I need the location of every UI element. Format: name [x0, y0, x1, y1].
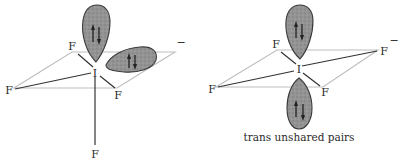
bond-i-f-front-right — [100, 76, 115, 88]
lone-pair-lobe-bottom-right — [287, 78, 312, 129]
right-diagram: I F F F F − trans unshared pairs — [208, 5, 398, 143]
atom-label-f-back-right: F — [380, 45, 388, 58]
left-diagram: I F F F F − — [5, 5, 185, 161]
atom-label-f-back-left: F — [68, 40, 76, 53]
atom-label-f-front-right: F — [114, 89, 122, 102]
iodine-fluoride-geometry-figure: I F F F F − I F F F F − tr — [0, 0, 406, 165]
bond-i-f-front-right-right — [303, 73, 320, 86]
atom-label-f-back-left-right: F — [272, 38, 280, 51]
lone-pair-lobe-top-left — [83, 5, 110, 62]
bond-i-f-back-left-right — [281, 52, 296, 64]
atom-label-iodine-right: I — [297, 63, 301, 76]
atom-label-f-left: F — [5, 84, 13, 97]
charge-label-right: − — [389, 34, 398, 47]
charge-label-left: − — [176, 36, 185, 49]
caption-trans-unshared-pairs: trans unshared pairs — [244, 131, 355, 143]
atom-label-f-left-right: F — [208, 83, 216, 96]
atom-label-iodine-left: I — [93, 67, 97, 80]
lone-pair-lobe-top-right — [286, 5, 313, 59]
bond-i-f-left — [15, 73, 91, 89]
atom-label-f-front-right-right: F — [321, 86, 329, 99]
atom-label-f-axial: F — [91, 148, 99, 161]
